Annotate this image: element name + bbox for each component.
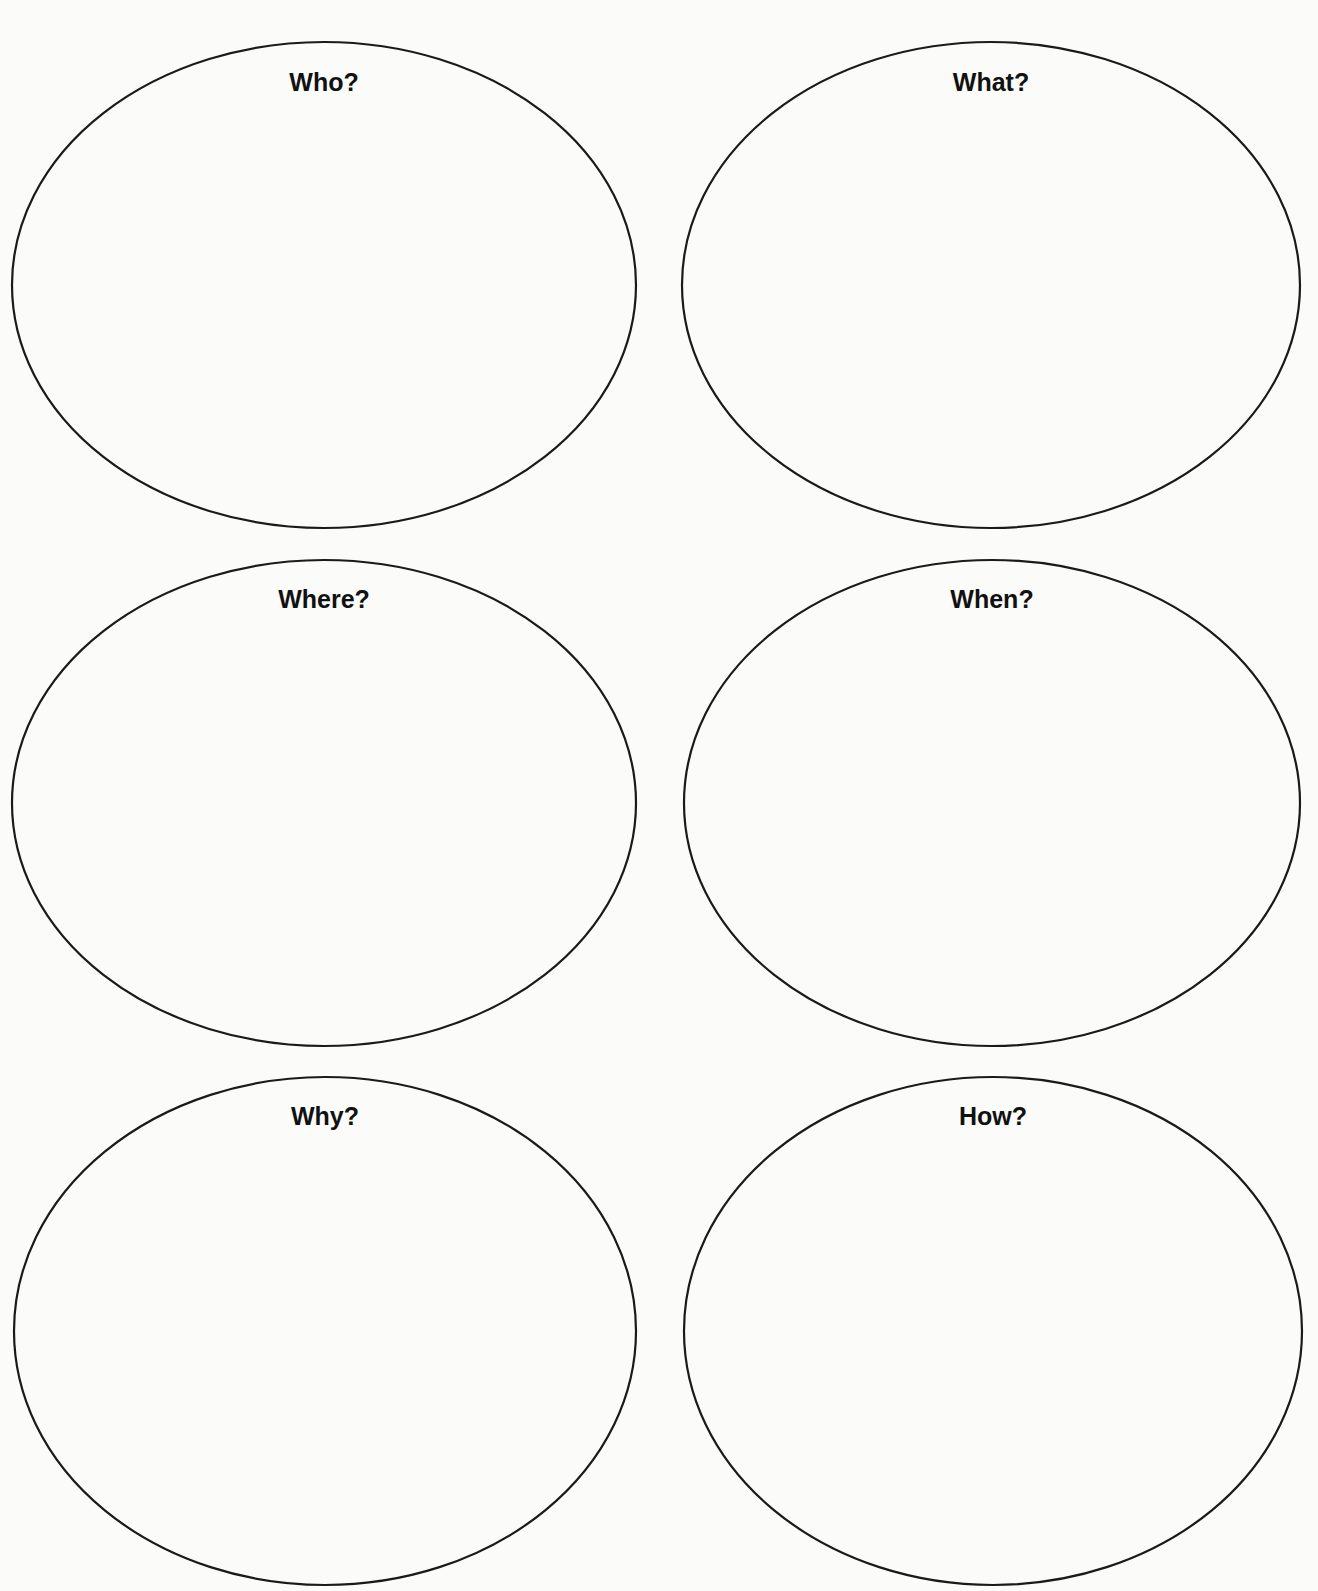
worksheet-page: Who? What? Where? When? Why? How? [0,0,1318,1591]
why-oval[interactable] [14,1077,636,1585]
where-oval[interactable] [12,560,636,1046]
oval-graphics [0,0,1318,1591]
how-label: How? [959,1104,1027,1129]
what-label: What? [953,70,1029,95]
where-label: Where? [278,587,370,612]
when-oval[interactable] [684,560,1300,1046]
who-oval[interactable] [12,42,636,528]
what-oval[interactable] [682,42,1300,528]
who-label: Who? [289,70,358,95]
why-label: Why? [291,1104,359,1129]
how-oval[interactable] [684,1077,1302,1585]
when-label: When? [950,587,1033,612]
